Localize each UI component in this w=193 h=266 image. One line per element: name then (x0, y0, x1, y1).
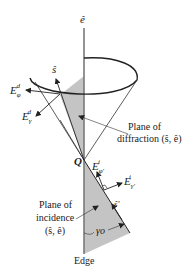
s-hat-label: ŝ (52, 64, 56, 75)
plane-diffraction-label-2: diffraction (ŝ, ê) (117, 134, 182, 144)
plane-incidence-label-2: incidence (36, 213, 74, 223)
cone-rim-back (84, 58, 137, 80)
plane-incidence-label-3: (ŝ, ê) (45, 226, 65, 236)
edge-label: Edge (74, 256, 95, 266)
E-gamma-i-label: Eγ'i (124, 176, 137, 187)
Q-label: Q (74, 156, 82, 167)
plane-diffraction-label-1: Plane of (128, 122, 161, 132)
e-hat-label: ê (80, 14, 85, 25)
E-gamma-d-label: Eγd (22, 111, 35, 122)
diffraction-diagram: ê ŝ Eφd Eγd Plane of diffraction (ŝ, ê) … (0, 0, 193, 266)
E-phi-d-label: Eφd (10, 85, 24, 96)
plane-incidence-label-1: Plane of (39, 200, 72, 210)
E-gamma-i-arrow (104, 183, 122, 190)
E-gamma-d-arrow (36, 94, 60, 116)
s-prime-hat-label: ŝ' (114, 200, 119, 209)
E-phi-i-label: Eφ'i (92, 161, 106, 172)
plane-of-diffraction-shade (60, 76, 84, 160)
diffraction-plane-leader (79, 116, 128, 134)
gamma-o-label: γo (96, 226, 105, 236)
